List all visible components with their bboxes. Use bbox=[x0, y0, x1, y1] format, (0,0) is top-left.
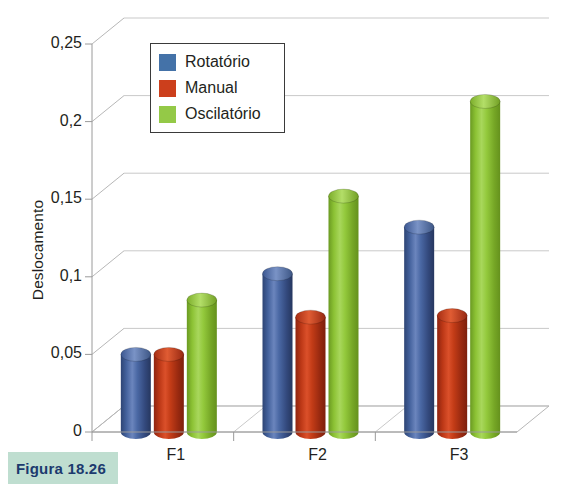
legend-entry: Manual bbox=[159, 75, 284, 101]
y-tick-label: 0,05 bbox=[22, 344, 82, 362]
y-tick-label: 0 bbox=[22, 422, 82, 440]
x-tick-label: F2 bbox=[288, 446, 348, 464]
legend-swatch-icon bbox=[159, 80, 176, 97]
bar-f2-manual bbox=[296, 310, 326, 439]
bar-f2-oscilatório bbox=[329, 189, 359, 439]
x-tick-label: F1 bbox=[146, 446, 206, 464]
chart-bars bbox=[121, 94, 500, 439]
figure-caption: Figura 18.26 bbox=[8, 452, 118, 484]
bar-f1-oscilatório bbox=[187, 293, 217, 439]
figure-container: Deslocamento 00,050,10,150,20,25 F1F2F3 … bbox=[0, 0, 566, 493]
bar-f3-rotatório bbox=[404, 220, 434, 439]
bar-f3-oscilatório bbox=[470, 94, 500, 439]
legend-swatch-icon bbox=[159, 54, 176, 71]
bar-f1-manual bbox=[154, 347, 184, 439]
y-tick-label: 0,2 bbox=[22, 112, 82, 130]
legend-swatch-icon bbox=[159, 106, 176, 123]
legend-label: Oscilatório bbox=[185, 106, 261, 122]
legend-label: Rotatório bbox=[185, 54, 250, 70]
legend-entry: Oscilatório bbox=[159, 101, 284, 127]
y-tick-label: 0,1 bbox=[22, 267, 82, 285]
bar-f1-rotatório bbox=[121, 347, 151, 439]
y-tick-label: 0,25 bbox=[22, 34, 82, 52]
bar-f2-rotatório bbox=[263, 267, 293, 439]
legend-entry: Rotatório bbox=[159, 49, 284, 75]
bar-f3-manual bbox=[437, 309, 467, 439]
y-tick-label: 0,15 bbox=[22, 189, 82, 207]
legend-label: Manual bbox=[185, 80, 237, 96]
x-tick-label: F3 bbox=[429, 446, 489, 464]
chart-legend: RotatórioManualOscilatório bbox=[150, 43, 285, 133]
figure-caption-text: Figura 18.26 bbox=[16, 460, 106, 477]
